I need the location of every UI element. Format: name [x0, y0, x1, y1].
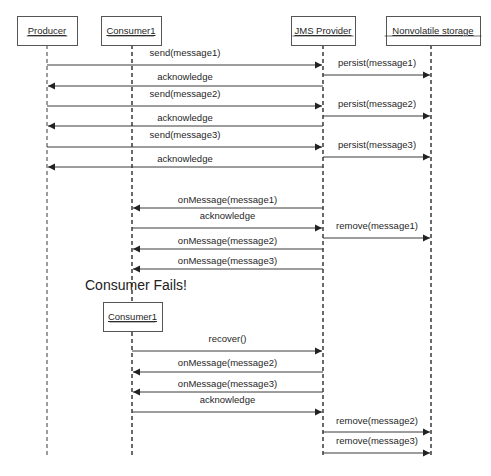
- message-label: onMessage(message1): [178, 194, 277, 205]
- message-14: recover(): [132, 333, 322, 351]
- message-0: send(message1): [47, 47, 322, 65]
- message-15: onMessage(message2): [133, 357, 323, 372]
- message-7: persist(message3): [323, 139, 430, 157]
- message-5: acknowledge: [48, 112, 323, 126]
- participant-consumer1-restart-label: Consumer1: [108, 311, 157, 322]
- message-13: onMessage(message3): [133, 255, 323, 269]
- message-16: onMessage(message3): [133, 378, 323, 392]
- message-label: send(message3): [150, 129, 221, 140]
- message-label: remove(message3): [336, 435, 418, 446]
- message-label: remove(message2): [336, 415, 418, 426]
- message-3: send(message2): [47, 88, 322, 106]
- message-label: onMessage(message3): [178, 255, 277, 266]
- message-label: onMessage(message2): [178, 235, 277, 246]
- message-4: persist(message2): [323, 98, 430, 116]
- message-19: remove(message3): [323, 435, 430, 453]
- message-label: persist(message2): [338, 98, 416, 109]
- message-2: acknowledge: [48, 71, 323, 86]
- message-9: onMessage(message1): [133, 194, 323, 208]
- message-11: remove(message1): [323, 220, 430, 238]
- message-label: remove(message1): [336, 220, 418, 231]
- message-label: persist(message3): [338, 139, 416, 150]
- participant-consumer1-restart: Consumer1: [104, 303, 163, 332]
- message-label: acknowledge: [200, 394, 255, 405]
- annotations: Consumer Fails!: [85, 277, 187, 293]
- sequence-diagram: ProducerConsumer1JMS ProviderNonvolatile…: [0, 0, 491, 476]
- participant-jms: JMS Provider: [292, 17, 356, 46]
- participant-jms-label: JMS Provider: [294, 25, 351, 36]
- participant-storage-label: Nonvolatile storage: [392, 25, 473, 36]
- message-6: send(message3): [47, 129, 322, 147]
- message-label: recover(): [208, 333, 246, 344]
- participant-consumer1-label: Consumer1: [106, 25, 155, 36]
- message-label: send(message2): [150, 88, 221, 99]
- participant-consumer1: Consumer1: [102, 17, 162, 46]
- message-label: onMessage(message2): [178, 357, 277, 368]
- message-label: acknowledge: [157, 112, 212, 123]
- consumer-fails-annotation: Consumer Fails!: [85, 277, 187, 293]
- participant-storage: Nonvolatile storage: [385, 17, 482, 46]
- message-10: acknowledge: [132, 210, 322, 228]
- messages: send(message1)persist(message1)acknowled…: [47, 47, 430, 453]
- message-label: onMessage(message3): [178, 378, 277, 389]
- message-12: onMessage(message2): [133, 235, 323, 249]
- participant-producer-label: Producer: [28, 25, 67, 36]
- message-1: persist(message1): [323, 57, 430, 75]
- participant-producer: Producer: [18, 17, 78, 46]
- message-label: acknowledge: [157, 153, 212, 164]
- message-label: persist(message1): [338, 57, 416, 68]
- message-label: send(message1): [150, 47, 221, 58]
- message-label: acknowledge: [200, 210, 255, 221]
- message-18: remove(message2): [323, 415, 430, 432]
- message-17: acknowledge: [132, 394, 322, 412]
- message-label: acknowledge: [157, 71, 212, 82]
- message-8: acknowledge: [48, 153, 323, 167]
